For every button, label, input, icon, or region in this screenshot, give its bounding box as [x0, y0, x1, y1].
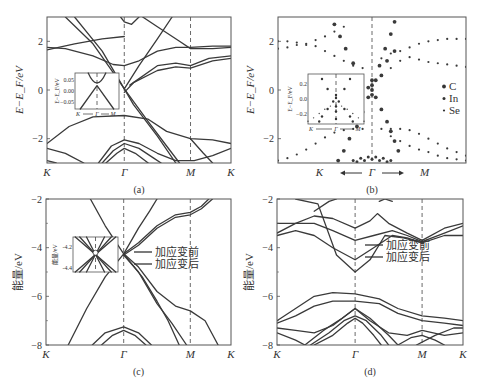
data-point-se — [333, 31, 335, 33]
band-line — [277, 293, 463, 321]
data-point-se — [446, 157, 448, 159]
inset-y-tick: 0.00 — [64, 88, 75, 94]
y-tick-label: −4 — [262, 242, 273, 253]
inset-k-label: K — [308, 126, 314, 132]
y-tick-label: −2 — [262, 194, 273, 205]
data-point-se — [286, 40, 288, 42]
data-point-se — [427, 138, 429, 140]
inset-y-label: 能量/eV — [51, 244, 59, 265]
data-point-se — [315, 45, 317, 47]
y-tick-label: 2 — [38, 36, 43, 47]
band-line — [277, 333, 305, 345]
data-point-se — [409, 129, 411, 131]
panel-caption: (c) — [133, 366, 144, 378]
data-point-se — [456, 151, 458, 153]
data-point-se — [390, 67, 392, 69]
data-point-in — [359, 157, 362, 160]
y-tick-label: −2 — [263, 133, 274, 144]
k-point-label: K — [226, 166, 235, 178]
data-point-se — [437, 62, 439, 64]
data-point-se — [409, 56, 411, 58]
inset-y-tick: 0.05 — [64, 77, 75, 83]
band-line — [314, 199, 336, 211]
band-line — [47, 148, 84, 163]
data-point-in — [367, 155, 370, 158]
plot-area — [277, 199, 463, 345]
data-point-se — [333, 55, 335, 57]
data-point-se — [324, 136, 326, 138]
inset-y-tick: 0.2 — [300, 81, 308, 87]
data-point-c — [385, 120, 389, 124]
inset-plot: 0.050.00−0.05E−E_F/eVKΓM — [54, 73, 119, 117]
k-point-label: Γ — [120, 166, 128, 178]
k-point-label: Γ — [368, 166, 376, 178]
band-line — [191, 139, 213, 163]
y-axis-label: E−E_F/eV — [13, 65, 25, 115]
panel-a-band-structure: −202KΓMK(a)E−E_F/eV0.050.00−0.05E−E_F/eV… — [13, 17, 235, 196]
y-tick-label: 0 — [269, 85, 274, 96]
inset-y-tick: 0.0 — [300, 96, 308, 102]
data-point-se — [380, 128, 382, 130]
y-tick-label: −2 — [32, 133, 43, 144]
data-point-in — [374, 155, 377, 158]
inset-y-tick: −0.05 — [60, 99, 74, 105]
legend-entry: C — [449, 80, 456, 92]
data-point-c — [348, 137, 352, 141]
plot-area — [277, 17, 467, 163]
inset-y-label: E−E_F/eV — [54, 77, 60, 103]
band-structure-figure: −202KΓMK(a)E−E_F/eV0.050.00−0.05E−E_F/eV… — [0, 0, 482, 392]
data-point-se — [418, 58, 420, 60]
data-point-se — [315, 39, 317, 41]
panel-caption: (b) — [366, 184, 378, 196]
data-point-se — [324, 50, 326, 52]
data-point-c — [393, 49, 397, 53]
data-point-se — [399, 140, 401, 142]
data-point-se — [343, 60, 345, 62]
data-point-c — [366, 86, 370, 90]
legend-entry: 加应变后 — [386, 250, 430, 263]
data-point-se — [286, 157, 288, 159]
inset-k-label: K — [75, 111, 81, 117]
data-point-c — [389, 129, 393, 133]
data-point-se — [399, 60, 401, 62]
panel-caption: (d) — [364, 366, 376, 378]
band-line — [277, 301, 463, 325]
data-point-in — [389, 159, 392, 162]
legend-entry: 加应变后 — [155, 257, 199, 270]
data-point-se — [362, 128, 364, 130]
data-point-c — [344, 47, 348, 51]
panel-d-strain-bands: −8−6−4−2KΓMK(d)能量/eV加应变前加应变后 — [242, 194, 467, 379]
data-point-c — [393, 139, 397, 143]
data-point-se — [437, 142, 439, 144]
data-point-c — [370, 93, 374, 97]
y-tick-label: −8 — [31, 340, 42, 351]
data-point-se — [446, 147, 448, 149]
y-tick-label: −4 — [31, 242, 42, 253]
data-point-se — [427, 40, 429, 42]
data-point-se — [418, 43, 420, 45]
data-point-se — [418, 149, 420, 151]
inset-k-label: M — [110, 111, 117, 117]
k-point-label: K — [42, 166, 51, 178]
data-point-c — [366, 95, 370, 99]
data-point-se — [324, 35, 326, 37]
panel-b-projected-bands: −202KΓM(b)E−E_F/eVCInSe0.20.0−0.2E−E_F/e… — [244, 17, 467, 196]
data-point-se — [409, 145, 411, 147]
inset-plot: -4.2-4.4能量/eV — [51, 237, 118, 272]
data-point-c — [370, 88, 374, 92]
y-axis-label: 能量/eV — [11, 253, 24, 291]
y-tick-label: 2 — [269, 36, 274, 47]
band-line — [143, 17, 231, 49]
inset-y-tick: -4.4 — [63, 265, 73, 271]
inset-k-label: Γ — [333, 126, 338, 132]
data-point-c — [378, 64, 382, 68]
data-point-se — [390, 135, 392, 137]
plot-area — [47, 17, 231, 163]
data-point-c — [380, 108, 384, 112]
k-point-label: K — [458, 348, 467, 360]
y-tick-label: −2 — [31, 194, 42, 205]
data-point-se — [296, 153, 298, 155]
data-point-se — [418, 133, 420, 135]
data-point-c — [383, 47, 387, 51]
data-point-in — [382, 157, 385, 160]
